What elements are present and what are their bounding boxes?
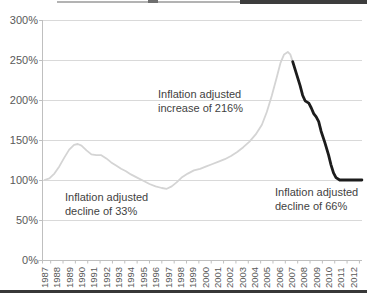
x-tick-label: 2001 [212,267,223,288]
x-tick-label: 2011 [335,268,346,288]
x-tick-label: 1988 [51,267,62,288]
x-tick-label: 1991 [88,267,99,288]
x-tick-label: 1998 [175,267,186,288]
y-tick-label: 0% [22,254,38,266]
x-tick-label: 1999 [187,267,198,288]
x-tick-label: 2006 [274,267,285,288]
x-tick-label: 2000 [200,267,211,288]
y-tick-label: 150% [10,134,38,146]
annotation-1: Inflation adjusteddecline of 33% [65,191,148,217]
x-tick-label: 1995 [138,267,149,288]
y-tick-label: 250% [10,54,38,66]
x-tick-label: 2003 [237,267,248,288]
x-tick-label: 1990 [76,267,87,288]
x-tick-label: 2010 [323,267,334,288]
decline-line-dark [293,62,362,180]
bottom-border [0,290,367,293]
x-tick-label: 1992 [101,267,112,288]
x-tick-label: 2004 [249,267,260,288]
y-tick-label: 100% [10,174,38,186]
x-tick-label: 1996 [150,267,161,288]
x-tick-label: 2002 [224,267,235,288]
x-tick-label: 2012 [348,267,359,288]
y-tick-label: 200% [10,94,38,106]
y-tick-label: 50% [16,214,38,226]
x-tick-label: 2007 [286,267,297,288]
x-tick-label: 1993 [113,267,124,288]
cropped-title-fragment-mid [148,0,158,3]
inflation-adjusted-line-chart: 300%250%200%150%100%50%0%198719881989199… [0,0,367,296]
y-tick-label: 300% [10,14,38,26]
x-tick-label: 2009 [311,267,322,288]
x-tick-label: 1987 [39,267,50,288]
x-tick-label: 2005 [261,267,272,288]
x-tick-label: 1989 [64,267,75,288]
x-tick-label: 2008 [298,267,309,288]
cropped-title-fragment-dark [240,0,367,4]
chart-page: 300%250%200%150%100%50%0%198719881989199… [0,0,367,296]
x-tick-label: 1997 [163,267,174,288]
history-line-light [45,52,293,189]
x-tick-label: 1994 [125,267,136,288]
annotation-2: Inflation adjusteddecline of 66% [275,186,358,212]
